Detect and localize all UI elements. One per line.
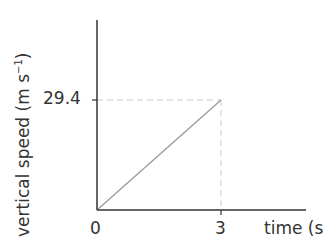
chart-canvas: [0, 0, 324, 251]
data-line: [97, 100, 221, 210]
x-axis-label: time (s: [264, 218, 323, 238]
x-tick-label-origin: 0: [90, 218, 101, 238]
x-tick-label: 3: [215, 218, 226, 238]
y-axis-label: vertical speed (m s−1): [4, 0, 34, 251]
y-tick-label: 29.4: [43, 88, 81, 108]
